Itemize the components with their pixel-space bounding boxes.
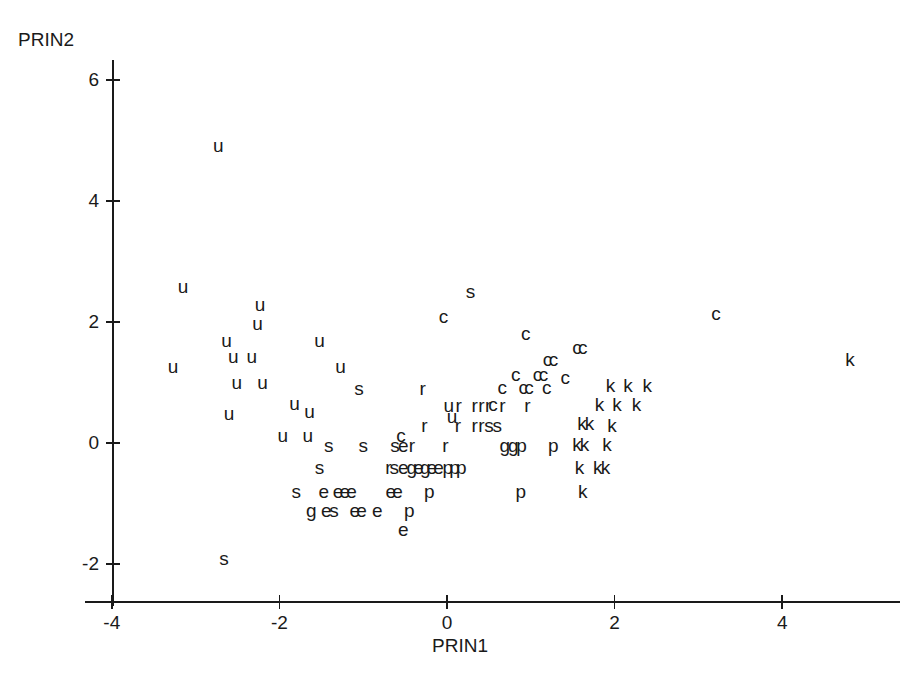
data-point-p: p xyxy=(516,435,527,456)
data-point-s: s xyxy=(354,378,364,399)
data-point-k: k xyxy=(845,349,855,370)
data-point-k: k xyxy=(595,394,605,415)
data-point-u: u xyxy=(213,135,224,156)
data-point-g: g xyxy=(306,500,317,521)
x-axis-title: PRIN1 xyxy=(432,635,488,656)
data-point-s: s xyxy=(219,548,229,569)
data-point-u: u xyxy=(335,356,346,377)
data-point-k: k xyxy=(585,413,595,434)
data-point-c: c xyxy=(439,306,449,327)
ticks-layer: -4-2024-20246 xyxy=(82,69,788,633)
scatter-plot-figure: -4-2024-20246 uuuuuuuuuuuuuuuuuusccccccc… xyxy=(0,0,922,686)
data-point-r: r xyxy=(499,395,506,416)
data-point-r: r xyxy=(409,435,416,456)
data-point-u: u xyxy=(278,425,289,446)
data-point-c: c xyxy=(711,303,721,324)
data-point-k: k xyxy=(580,434,590,455)
x-tick-label: 4 xyxy=(777,612,788,633)
y-tick-label: 0 xyxy=(88,432,99,453)
data-point-c: c xyxy=(521,323,531,344)
data-point-r: r xyxy=(524,395,531,416)
data-point-u: u xyxy=(228,346,239,367)
data-point-k: k xyxy=(602,434,612,455)
data-point-p: p xyxy=(404,500,415,521)
y-axis-title: PRIN2 xyxy=(18,29,74,50)
data-point-u: u xyxy=(178,276,189,297)
x-tick-label: -4 xyxy=(103,612,120,633)
data-point-s: s xyxy=(291,481,301,502)
data-point-r: r xyxy=(442,435,449,456)
data-point-e: e xyxy=(398,519,409,540)
data-point-u: u xyxy=(257,372,268,393)
data-point-u: u xyxy=(304,401,315,422)
y-tick-label: 2 xyxy=(88,311,99,332)
data-point-u: u xyxy=(289,393,300,414)
data-point-u: u xyxy=(224,403,235,424)
data-point-u: u xyxy=(303,425,314,446)
data-point-r: r xyxy=(456,395,463,416)
data-point-e: e xyxy=(346,481,357,502)
data-point-k: k xyxy=(612,394,622,415)
y-tick-label: -2 xyxy=(82,553,99,574)
data-point-r: r xyxy=(455,415,462,436)
data-point-e: e xyxy=(398,435,409,456)
x-tick-label: -2 xyxy=(271,612,288,633)
data-point-s: s xyxy=(358,435,368,456)
data-point-e: e xyxy=(356,500,367,521)
data-point-c: c xyxy=(560,367,570,388)
data-point-c: c xyxy=(549,349,559,370)
data-point-r: r xyxy=(420,378,427,399)
data-point-k: k xyxy=(643,375,653,396)
data-point-u: u xyxy=(443,395,454,416)
data-point-u: u xyxy=(246,346,257,367)
data-point-c: c xyxy=(542,377,552,398)
data-point-p: p xyxy=(548,435,559,456)
y-tick-label: 6 xyxy=(88,69,99,90)
data-point-g: g xyxy=(407,457,418,478)
y-tick-label: 4 xyxy=(88,190,99,211)
data-point-e: e xyxy=(392,481,403,502)
data-point-r: r xyxy=(421,415,428,436)
data-point-p: p xyxy=(424,481,435,502)
data-point-g: g xyxy=(420,457,431,478)
data-point-p: p xyxy=(515,481,526,502)
data-point-p: p xyxy=(456,457,467,478)
plot-canvas: -4-2024-20246 uuuuuuuuuuuuuuuuuusccccccc… xyxy=(0,0,922,686)
data-point-s: s xyxy=(324,435,334,456)
x-tick-label: 2 xyxy=(609,612,620,633)
axes-layer xyxy=(85,60,900,606)
data-point-e: e xyxy=(321,500,332,521)
data-point-k: k xyxy=(632,394,642,415)
data-point-u: u xyxy=(168,356,179,377)
data-point-s: s xyxy=(493,415,503,436)
data-point-k: k xyxy=(575,457,585,478)
data-point-u: u xyxy=(231,372,242,393)
data-point-u: u xyxy=(314,330,325,351)
data-point-s: s xyxy=(466,281,476,302)
data-point-e: e xyxy=(372,500,383,521)
data-points-layer: uuuuuuuuuuuuuuuuuusccccccccccccccccckkkk… xyxy=(168,135,856,569)
data-point-u: u xyxy=(252,313,263,334)
data-point-c: c xyxy=(578,337,588,358)
data-point-k: k xyxy=(601,457,611,478)
data-point-s: s xyxy=(315,457,325,478)
data-point-r: r xyxy=(485,395,492,416)
data-point-k: k xyxy=(578,481,588,502)
x-tick-label: 0 xyxy=(442,612,453,633)
data-point-e: e xyxy=(319,481,330,502)
